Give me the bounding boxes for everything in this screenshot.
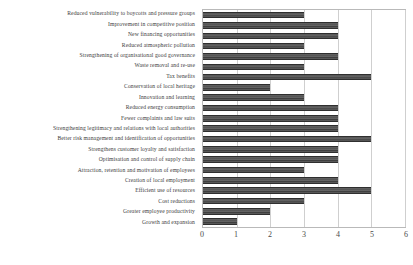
category-label: Reduced vulnerability to boycotts and pr…: [0, 9, 199, 19]
bar: [203, 22, 338, 29]
plot-area: [202, 9, 406, 228]
category-label: Efficient use of resources: [0, 186, 199, 196]
bar: [203, 136, 371, 143]
bar: [203, 74, 371, 81]
bar-row: [203, 113, 405, 123]
bar: [203, 94, 304, 101]
bar: [203, 177, 338, 184]
category-axis-labels: Reduced vulnerability to boycotts and pr…: [0, 9, 199, 228]
bar-row: [203, 134, 405, 144]
x-tick-label: 4: [336, 230, 340, 239]
bar-row: [203, 206, 405, 216]
bar: [203, 105, 338, 112]
x-tick-label: 6: [404, 230, 408, 239]
bar: [203, 156, 338, 163]
bar: [203, 84, 270, 91]
bar-row: [203, 155, 405, 165]
category-label: Cost reductions: [0, 197, 199, 207]
gridline: [405, 10, 406, 227]
x-tick-label: 2: [268, 230, 272, 239]
x-tick-label: 1: [234, 230, 238, 239]
category-label: Reduced energy consumption: [0, 103, 199, 113]
bar: [203, 43, 304, 50]
bar-row: [203, 20, 405, 30]
category-label: Waste removal and re-use: [0, 61, 199, 71]
bar: [203, 146, 338, 153]
bar-row: [203, 175, 405, 185]
category-label: Reduced atmospheric pollution: [0, 40, 199, 50]
horizontal-bar-chart: Reduced vulnerability to boycotts and pr…: [0, 0, 413, 265]
bar-row: [203, 196, 405, 206]
bar-row: [203, 31, 405, 41]
bar: [203, 12, 304, 19]
category-label: Strengthens customer loyalty and satisfa…: [0, 144, 199, 154]
category-label: Strengthening legitimacy and relations w…: [0, 124, 199, 134]
category-label: Conservation of local heritage: [0, 82, 199, 92]
x-tick-label: 5: [370, 230, 374, 239]
bar-row: [203, 144, 405, 154]
category-label: Improvement in competitive position: [0, 19, 199, 29]
x-tick-label: 3: [302, 230, 306, 239]
bar-row: [203, 62, 405, 72]
bar: [203, 125, 338, 132]
bar: [203, 33, 338, 40]
bar-row: [203, 217, 405, 227]
category-label: Innovation and learning: [0, 92, 199, 102]
bars-container: [203, 10, 405, 227]
bar-row: [203, 82, 405, 92]
x-axis-tick-labels: 0123456: [202, 230, 406, 244]
bar: [203, 218, 237, 225]
bar: [203, 115, 338, 122]
bar: [203, 64, 304, 71]
bar-row: [203, 93, 405, 103]
category-label: New financing opportunities: [0, 30, 199, 40]
category-label: Better risk management and identificatio…: [0, 134, 199, 144]
category-label: Strengthening of organisational good gov…: [0, 51, 199, 61]
bar-row: [203, 165, 405, 175]
x-tick-label: 0: [200, 230, 204, 239]
bar: [203, 167, 304, 174]
bar-row: [203, 72, 405, 82]
bar-row: [203, 103, 405, 113]
category-label: Attraction, retention and motivation of …: [0, 165, 199, 175]
bar: [203, 187, 371, 194]
bar: [203, 53, 338, 60]
category-label: Growth and expansion: [0, 217, 199, 227]
bar-row: [203, 10, 405, 20]
category-label: Fewer complaints and law suits: [0, 113, 199, 123]
category-label: Optimisation and control of supply chain: [0, 155, 199, 165]
bar-row: [203, 124, 405, 134]
bar: [203, 208, 270, 215]
bar-row: [203, 41, 405, 51]
bar: [203, 198, 304, 205]
bar-row: [203, 186, 405, 196]
category-label: Tax benefits: [0, 72, 199, 82]
category-label: Greater employee productivity: [0, 207, 199, 217]
category-label: Creation of local employment: [0, 176, 199, 186]
bar-row: [203, 51, 405, 61]
